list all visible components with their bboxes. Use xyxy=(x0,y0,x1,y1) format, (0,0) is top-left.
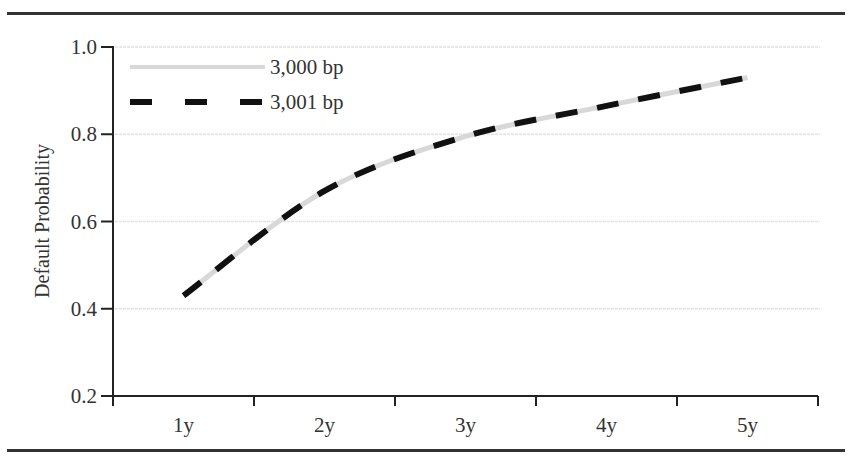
legend-label: 3,000 bp xyxy=(270,55,344,79)
x-tick-label: 1y xyxy=(173,413,195,437)
x-tick-label: 2y xyxy=(314,413,336,437)
x-tick-label: 3y xyxy=(455,413,477,437)
series-lines xyxy=(184,78,748,296)
x-tick-label: 5y xyxy=(737,413,759,437)
legend-label: 3,001 bp xyxy=(270,90,344,114)
series-line-3001bp xyxy=(184,78,748,296)
y-tick-label: 1.0 xyxy=(71,35,97,59)
series-line-3000bp xyxy=(184,78,748,296)
y-axis-ticks: 0.20.40.60.81.0 xyxy=(71,35,113,408)
y-axis-title: Default Probability xyxy=(31,144,54,298)
legend: 3,000 bp3,001 bp xyxy=(130,55,344,114)
y-tick-label: 0.8 xyxy=(71,122,97,146)
x-axis-ticks: 1y2y3y4y5y xyxy=(113,396,818,437)
x-tick-label: 4y xyxy=(596,413,618,437)
y-tick-label: 0.4 xyxy=(71,297,98,321)
y-tick-label: 0.2 xyxy=(71,384,97,408)
axes xyxy=(113,46,818,406)
line-chart: 0.20.40.60.81.0 1y2y3y4y5y Default Proba… xyxy=(0,0,851,463)
y-tick-label: 0.6 xyxy=(71,210,97,234)
